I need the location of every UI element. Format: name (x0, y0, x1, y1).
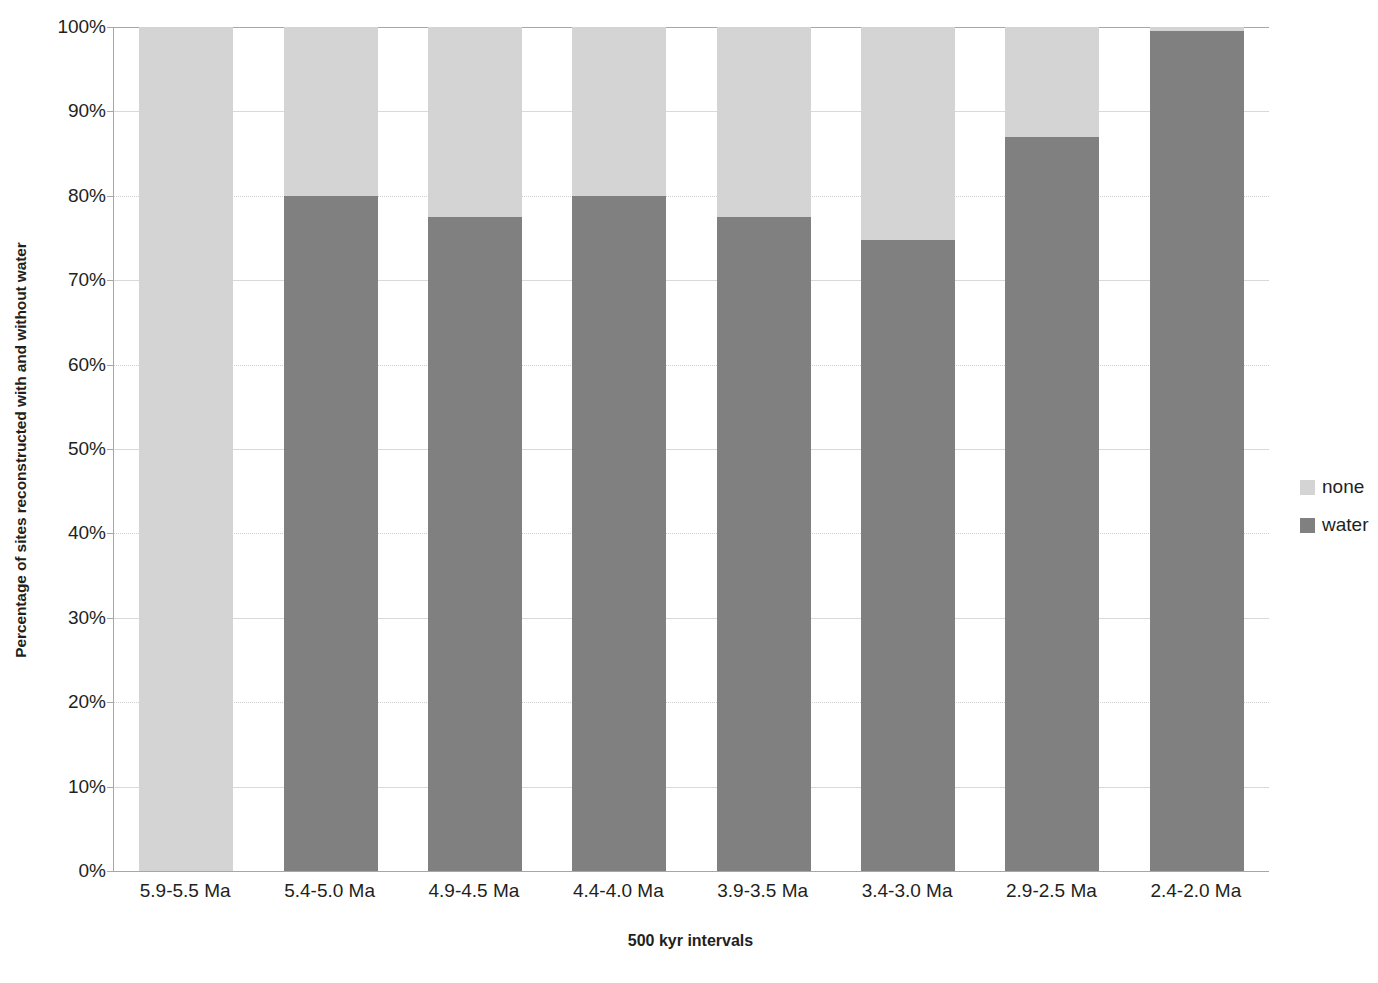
legend-swatch-icon (1300, 518, 1315, 533)
y-axis-tick-label: 80% (68, 185, 106, 207)
stacked-bar[interactable] (428, 27, 522, 871)
y-axis-tick-mark (107, 449, 114, 450)
bar-group (1125, 27, 1269, 871)
bar-segment-water[interactable] (572, 196, 666, 871)
y-axis-tick-label: 20% (68, 691, 106, 713)
plot-area (113, 27, 1269, 871)
x-axis-tick-label: 4.9-4.5 Ma (402, 880, 546, 902)
gridline (114, 871, 1269, 872)
y-axis-title-container: Percentage of sites reconstructed with a… (0, 0, 42, 900)
y-axis-tick-label: 50% (68, 438, 106, 460)
y-axis-tick-label: 90% (68, 100, 106, 122)
y-axis-tick-label: 10% (68, 776, 106, 798)
bar-group (692, 27, 836, 871)
stacked-bar[interactable] (284, 27, 378, 871)
stacked-bar[interactable] (1005, 27, 1099, 871)
legend-swatch-icon (1300, 480, 1315, 495)
x-axis-tick-labels: 5.9-5.5 Ma5.4-5.0 Ma4.9-4.5 Ma4.4-4.0 Ma… (113, 880, 1268, 916)
y-axis-tick-mark (107, 533, 114, 534)
bar-segment-none[interactable] (1005, 27, 1099, 137)
y-axis-tick-mark (107, 618, 114, 619)
bar-segment-none[interactable] (428, 27, 522, 217)
y-axis-tick-mark (107, 27, 114, 28)
bar-segment-none[interactable] (717, 27, 811, 217)
legend-item[interactable]: none (1300, 468, 1378, 506)
y-axis-tick-label: 30% (68, 607, 106, 629)
bar-segment-none[interactable] (861, 27, 955, 240)
stacked-bar[interactable] (1150, 27, 1244, 871)
y-axis-tick-mark (107, 111, 114, 112)
stacked-bar[interactable] (861, 27, 955, 871)
stacked-bar[interactable] (572, 27, 666, 871)
stacked-bar[interactable] (717, 27, 811, 871)
legend-item-label: none (1322, 476, 1364, 498)
bar-group (980, 27, 1124, 871)
y-axis-title: Percentage of sites reconstructed with a… (12, 242, 30, 658)
y-axis-tick-label: 70% (68, 269, 106, 291)
bar-segment-none[interactable] (284, 27, 378, 196)
stacked-bar[interactable] (139, 27, 233, 871)
y-axis-tick-label: 40% (68, 522, 106, 544)
bar-segment-none[interactable] (572, 27, 666, 196)
bar-segment-water[interactable] (428, 217, 522, 871)
y-axis-tick-label: 60% (68, 354, 106, 376)
x-axis-tick-label: 5.4-5.0 Ma (257, 880, 401, 902)
bar-group (258, 27, 402, 871)
chart-figure: Percentage of sites reconstructed with a… (0, 0, 1378, 983)
bar-segment-water[interactable] (1150, 31, 1244, 871)
y-axis-tick-mark (107, 196, 114, 197)
bar-segment-water[interactable] (284, 196, 378, 871)
bar-segment-water[interactable] (861, 240, 955, 871)
x-axis-tick-label: 2.4-2.0 Ma (1124, 880, 1268, 902)
bar-group (547, 27, 691, 871)
y-axis-tick-mark (107, 280, 114, 281)
bar-segment-none[interactable] (139, 27, 233, 871)
x-axis-tick-label: 3.9-3.5 Ma (691, 880, 835, 902)
y-axis-tick-mark (107, 787, 114, 788)
legend-item-label: water (1322, 514, 1368, 536)
y-axis-tick-mark (107, 365, 114, 366)
x-axis-tick-label: 4.4-4.0 Ma (546, 880, 690, 902)
bar-group (114, 27, 258, 871)
bar-segment-water[interactable] (717, 217, 811, 871)
x-axis-tick-label: 2.9-2.5 Ma (979, 880, 1123, 902)
bar-segment-water[interactable] (1005, 137, 1099, 871)
bar-group (403, 27, 547, 871)
y-axis-tick-label: 0% (79, 860, 106, 882)
x-axis-tick-label: 5.9-5.5 Ma (113, 880, 257, 902)
legend-item[interactable]: water (1300, 506, 1378, 544)
y-axis-tick-mark (107, 871, 114, 872)
y-axis-tick-mark (107, 702, 114, 703)
y-axis-tick-labels: 0%10%20%30%40%50%60%70%80%90%100% (38, 27, 106, 871)
chart-legend: nonewater (1300, 468, 1378, 544)
x-axis-title: 500 kyr intervals (113, 932, 1268, 950)
y-axis-tick-label: 100% (57, 16, 106, 38)
bar-segment-none[interactable] (1150, 27, 1244, 31)
bar-group (836, 27, 980, 871)
x-axis-tick-label: 3.4-3.0 Ma (835, 880, 979, 902)
bar-series-group (114, 27, 1269, 871)
